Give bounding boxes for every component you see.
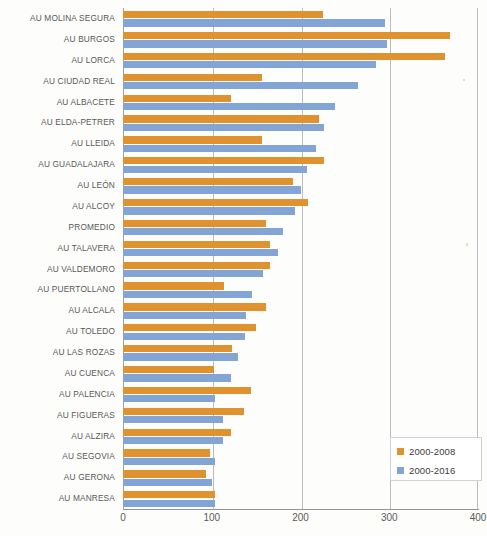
- bar-2000-2008: [123, 11, 323, 18]
- bar-2000-2016: [123, 333, 245, 340]
- bar-row: [0, 363, 487, 385]
- bar-2000-2016: [123, 437, 223, 444]
- bar-2000-2008: [123, 282, 224, 289]
- bar-2000-2008: [123, 408, 244, 415]
- bar-row: [0, 154, 487, 176]
- bar-row: [0, 342, 487, 364]
- x-tick-label: 400: [470, 512, 487, 523]
- bar-2000-2008: [123, 470, 206, 477]
- bar-2000-2016: [123, 82, 358, 89]
- bar-2000-2016: [123, 166, 307, 173]
- bar-row: [0, 384, 487, 406]
- bar-2000-2016: [123, 395, 215, 402]
- bar-2000-2008: [123, 449, 210, 456]
- bar-2000-2016: [123, 186, 301, 193]
- chart-legend: 2000-2008 2000-2016: [390, 437, 482, 481]
- bar-row: [0, 238, 487, 260]
- bar-2000-2008: [123, 115, 319, 122]
- bar-2000-2008: [123, 32, 450, 39]
- bar-2000-2008: [123, 491, 215, 498]
- x-tick-label: 300: [381, 512, 398, 523]
- bar-row: [0, 133, 487, 155]
- scan-artifact: [463, 79, 465, 81]
- bar-2000-2008: [123, 303, 266, 310]
- bar-row: [0, 29, 487, 51]
- bar-2000-2008: [123, 345, 232, 352]
- bar-row: [0, 112, 487, 134]
- bar-2000-2016: [123, 61, 376, 68]
- bar-2000-2016: [123, 103, 335, 110]
- x-tick-label: 0: [120, 512, 126, 523]
- bar-2000-2008: [123, 136, 262, 143]
- bar-row: [0, 50, 487, 72]
- bar-2000-2016: [123, 500, 215, 507]
- bar-row: [0, 279, 487, 301]
- bar-row: [0, 321, 487, 343]
- bar-2000-2016: [123, 270, 263, 277]
- bar-row: [0, 71, 487, 93]
- bar-row: [0, 217, 487, 239]
- legend-swatch-icon-2000-2008: [397, 448, 404, 455]
- legend-label-2000-2016: 2000-2016: [409, 465, 455, 476]
- bar-2000-2016: [123, 374, 231, 381]
- legend-item-2000-2008: 2000-2008: [397, 443, 477, 459]
- bar-2000-2008: [123, 262, 270, 269]
- bar-row: [0, 259, 487, 281]
- bar-row: [0, 196, 487, 218]
- bar-2000-2016: [123, 291, 252, 298]
- bar-2000-2008: [123, 387, 251, 394]
- legend-swatch-icon-2000-2016: [397, 467, 404, 474]
- bar-2000-2016: [123, 40, 387, 47]
- bar-2000-2008: [123, 53, 445, 60]
- legend-item-2000-2016: 2000-2016: [397, 462, 477, 478]
- bar-2000-2008: [123, 220, 266, 227]
- bar-2000-2016: [123, 479, 212, 486]
- bar-row: [0, 488, 487, 510]
- bar-row: [0, 405, 487, 427]
- bar-2000-2008: [123, 429, 231, 436]
- x-tick-label: 100: [203, 512, 220, 523]
- x-axis-tick-labels: 0100200300400: [0, 512, 487, 532]
- bar-row: [0, 300, 487, 322]
- bar-2000-2016: [123, 416, 223, 423]
- bar-row: [0, 8, 487, 30]
- bar-row: [0, 92, 487, 114]
- bar-2000-2016: [123, 124, 324, 131]
- legend-label-2000-2008: 2000-2008: [409, 446, 455, 457]
- bar-2000-2008: [123, 178, 293, 185]
- bar-2000-2016: [123, 19, 385, 26]
- bar-2000-2016: [123, 228, 283, 235]
- x-tick-label: 200: [292, 512, 309, 523]
- bar-2000-2016: [123, 249, 278, 256]
- bar-2000-2016: [123, 458, 215, 465]
- bar-2000-2008: [123, 241, 270, 248]
- bar-row: [0, 175, 487, 197]
- scan-artifact: [466, 243, 468, 246]
- bar-2000-2008: [123, 74, 262, 81]
- bar-2000-2008: [123, 157, 324, 164]
- bar-2000-2008: [123, 324, 256, 331]
- horizontal-bar-chart: AU MOLINA SEGURAAU BURGOSAU LORCAAU CIUD…: [0, 0, 487, 536]
- bar-2000-2008: [123, 366, 214, 373]
- bar-2000-2016: [123, 312, 246, 319]
- bar-2000-2016: [123, 145, 316, 152]
- bar-2000-2008: [123, 95, 231, 102]
- bar-2000-2016: [123, 207, 295, 214]
- bar-2000-2016: [123, 353, 238, 360]
- bar-2000-2008: [123, 199, 308, 206]
